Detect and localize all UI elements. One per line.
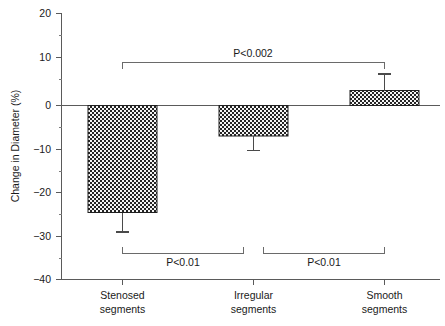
x-label-smooth-line1: Smooth <box>366 289 402 301</box>
x-axis-ticks <box>123 280 385 286</box>
y-tick-label-minus40: −40 <box>33 273 51 285</box>
bar-series <box>88 91 419 213</box>
x-label-irregular-line2: segments <box>231 303 277 315</box>
significance-label-top: P<0.002 <box>233 47 273 59</box>
y-tick-label-20: 20 <box>39 7 51 19</box>
x-axis-category-labels: Stenosed segments Irregular segments Smo… <box>100 289 408 315</box>
significance-bracket-top: P<0.002 <box>123 47 385 69</box>
y-tick-label-minus20: −20 <box>33 186 51 198</box>
bar-irregular-segments <box>219 106 288 137</box>
y-tick-label-minus30: −30 <box>33 230 51 242</box>
bar-stenosed-segments <box>88 106 157 213</box>
y-tick-label-minus10: −10 <box>33 143 51 155</box>
significance-label-bottom-right: P<0.01 <box>307 256 341 268</box>
chart-container: 20 10 0 −10 −20 −30 −40 Change in Diamet… <box>0 0 445 326</box>
y-axis-major-ticks <box>56 14 62 280</box>
y-tick-label-10: 10 <box>39 51 51 63</box>
significance-label-bottom-left: P<0.01 <box>166 256 200 268</box>
x-label-smooth-line2: segments <box>362 303 408 315</box>
y-axis-title: Change in Diameter (%) <box>9 90 21 203</box>
bar-chart: 20 10 0 −10 −20 −30 −40 Change in Diamet… <box>0 0 445 326</box>
x-label-irregular-line1: Irregular <box>234 289 274 301</box>
x-label-stenosed-line1: Stenosed <box>100 289 145 301</box>
significance-bracket-bottom-right: P<0.01 <box>264 247 385 268</box>
bar-smooth-segments <box>350 91 419 106</box>
significance-bracket-bottom-left: P<0.01 <box>123 247 244 268</box>
x-label-stenosed-line2: segments <box>100 303 146 315</box>
y-axis-tick-labels: 20 10 0 −10 −20 −30 −40 <box>33 7 51 285</box>
y-tick-label-0: 0 <box>45 99 51 111</box>
